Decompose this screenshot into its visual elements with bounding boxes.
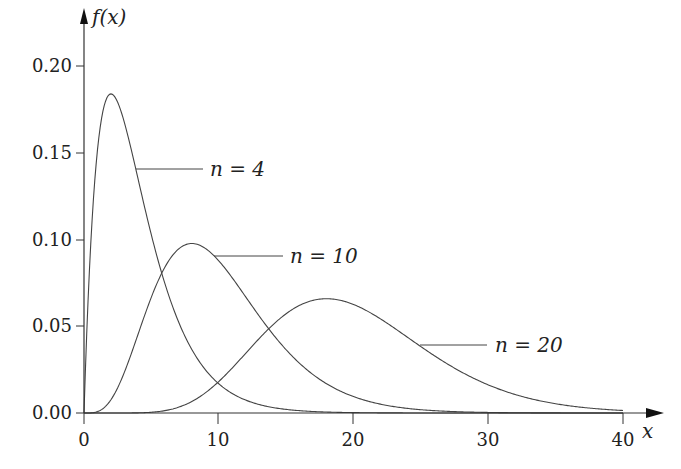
x-axis-arrow-icon bbox=[646, 408, 664, 418]
x-ticks: 0 10 20 30 40 bbox=[78, 413, 634, 450]
chart-canvas: 0.20 0.15 0.10 0.05 0.00 0 10 20 30 40 f… bbox=[0, 0, 681, 469]
curve-n10 bbox=[84, 244, 623, 413]
x-tick-label: 30 bbox=[477, 429, 500, 450]
label-n20: n = 20 bbox=[495, 333, 563, 357]
y-axis-label: f(x) bbox=[90, 5, 126, 29]
x-tick-label: 0 bbox=[78, 429, 89, 450]
label-n4: n = 4 bbox=[210, 157, 265, 181]
y-tick-label: 0.20 bbox=[32, 55, 72, 76]
label-n10: n = 10 bbox=[290, 244, 358, 268]
y-tick-label: 0.10 bbox=[32, 229, 72, 250]
x-axis-label: x bbox=[642, 419, 653, 443]
y-axis-arrow-icon bbox=[80, 8, 88, 24]
x-tick-label: 40 bbox=[612, 429, 635, 450]
y-ticks: 0.20 0.15 0.10 0.05 0.00 bbox=[32, 55, 84, 423]
y-tick-label: 0.05 bbox=[32, 315, 72, 336]
x-tick-label: 20 bbox=[342, 429, 365, 450]
y-tick-label: 0.15 bbox=[32, 142, 72, 163]
x-tick-label: 10 bbox=[207, 429, 230, 450]
y-tick-label: 0.00 bbox=[32, 402, 72, 423]
